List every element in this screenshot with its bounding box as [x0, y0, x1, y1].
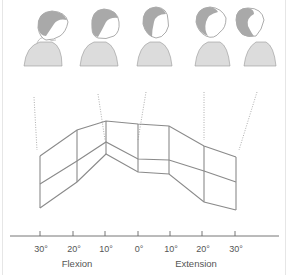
- tick-label-extension-20: 20°: [196, 244, 210, 254]
- projection-lines: [34, 92, 257, 150]
- spine-grid: [40, 121, 236, 210]
- head-figure-extension-15: [195, 7, 230, 66]
- tick-label-extension-10: 10°: [164, 244, 178, 254]
- spine-motion-diagram: [0, 0, 289, 275]
- tick-label-extension-30: 30°: [229, 244, 243, 254]
- flexion-caption: Flexion: [62, 258, 93, 269]
- head-figure-neutral: [137, 7, 172, 66]
- tick-label-zero: 0°: [135, 244, 144, 254]
- head-figure-flexion-15: [80, 9, 119, 66]
- angle-axis: [10, 231, 279, 236]
- extension-caption: Extension: [175, 258, 217, 269]
- tick-label-flexion-10: 10°: [99, 244, 113, 254]
- head-figure-extension-30: [236, 8, 276, 66]
- head-figure-flexion-30: [24, 11, 68, 66]
- tick-label-flexion-30: 30°: [34, 244, 48, 254]
- tick-label-flexion-20: 20°: [67, 244, 81, 254]
